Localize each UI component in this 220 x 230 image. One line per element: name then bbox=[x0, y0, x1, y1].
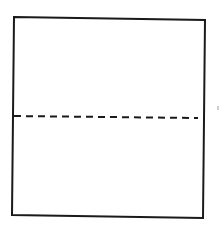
background bbox=[0, 0, 220, 230]
diagram-figure bbox=[0, 0, 220, 230]
